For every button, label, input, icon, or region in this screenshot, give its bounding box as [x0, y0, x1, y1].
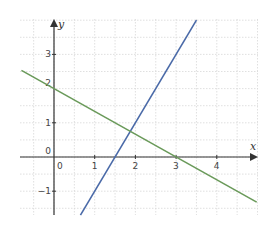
x-tick-label: 0 — [57, 161, 63, 171]
line-blue — [80, 20, 196, 215]
y-tick-label: 1 — [45, 118, 51, 128]
x-tick-label: 3 — [173, 161, 179, 171]
y-tick-label: 3 — [45, 49, 51, 59]
x-tick-label: 2 — [132, 161, 138, 171]
line-chart: x y 01234−11302 — [0, 0, 271, 230]
y-axis-label: y — [57, 18, 65, 31]
x-axis-arrow-icon — [250, 153, 258, 161]
y-tick-label: −1 — [38, 186, 51, 196]
x-tick-label: 1 — [92, 161, 98, 171]
line-green — [21, 70, 256, 202]
x-axis-label: x — [250, 140, 257, 153]
x-tick-label: 4 — [214, 161, 220, 171]
series-group — [21, 20, 256, 215]
y-tick-label: 0 — [45, 146, 51, 156]
